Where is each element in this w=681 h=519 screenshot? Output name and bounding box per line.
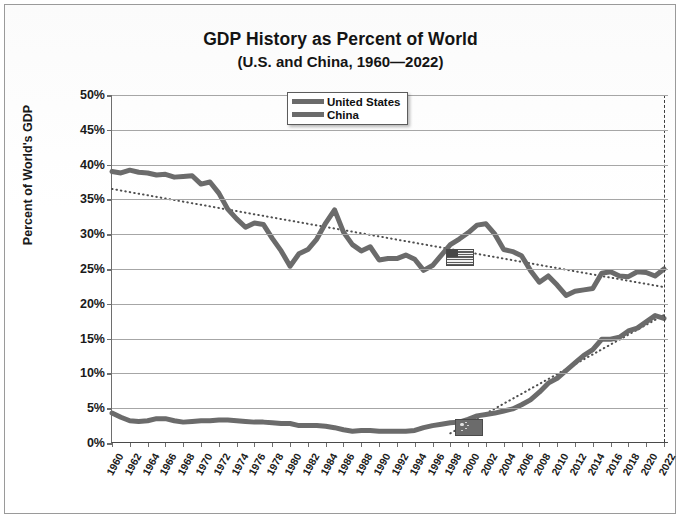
y-axis-tick-label: 25% xyxy=(59,262,105,276)
us-flag-marker xyxy=(446,249,474,266)
us-flag-canton xyxy=(447,250,458,257)
y-tick-mark xyxy=(107,130,112,132)
chart-container: GDP History as Percent of World (U.S. an… xyxy=(0,0,681,519)
gridline xyxy=(112,269,668,270)
y-tick-mark xyxy=(107,165,112,167)
china-flag-marker xyxy=(455,419,483,436)
y-tick-mark xyxy=(107,339,112,341)
legend-label-united-states: United States xyxy=(327,96,401,108)
y-axis-tick-label: 30% xyxy=(59,227,105,241)
y-tick-mark xyxy=(107,199,112,201)
china-flag-star xyxy=(465,422,467,424)
y-axis-tick-label: 45% xyxy=(59,123,105,137)
china-flag-star xyxy=(461,430,463,432)
trendline-united-states xyxy=(112,189,664,287)
y-axis-tick-label: 35% xyxy=(59,192,105,206)
y-tick-mark xyxy=(107,373,112,375)
y-tick-mark xyxy=(107,95,112,97)
gridline xyxy=(112,408,668,409)
plot-area xyxy=(111,95,668,443)
gridline xyxy=(112,339,668,340)
gridline xyxy=(112,234,668,235)
legend: United States China xyxy=(287,92,408,125)
y-axis-tick-label: 50% xyxy=(59,88,105,102)
legend-swatch-china xyxy=(292,112,324,117)
y-axis-tick-label: 5% xyxy=(59,401,105,415)
y-axis-labels: 0%5%10%15%20%25%30%35%40%45%50% xyxy=(57,95,105,443)
y-axis-tick-label: 10% xyxy=(59,366,105,380)
y-tick-mark xyxy=(107,304,112,306)
gridline xyxy=(112,304,668,305)
china-flag-star xyxy=(467,425,469,427)
gridline xyxy=(112,130,668,131)
china-flag-star xyxy=(465,428,467,430)
china-flag-star xyxy=(460,423,463,426)
y-axis-tick-label: 40% xyxy=(59,158,105,172)
gridline xyxy=(112,199,668,200)
legend-swatch-united-states xyxy=(292,99,324,104)
gridline xyxy=(112,373,668,374)
legend-item-china: China xyxy=(292,108,401,121)
y-tick-mark xyxy=(107,269,112,271)
gridline xyxy=(112,165,668,166)
series-line-united-states xyxy=(112,170,664,295)
y-axis-tick-label: 20% xyxy=(59,297,105,311)
y-axis-tick-label: 15% xyxy=(59,332,105,346)
legend-label-china: China xyxy=(327,109,359,121)
x-axis-labels: 1960196219641966196819701972197419761978… xyxy=(111,445,668,505)
legend-item-united-states: United States xyxy=(292,95,401,108)
y-axis-tick-label: 0% xyxy=(59,436,105,450)
y-axis-title: Percent of World's GDP xyxy=(21,85,35,265)
y-tick-mark xyxy=(107,234,112,236)
y-tick-mark xyxy=(107,408,112,410)
